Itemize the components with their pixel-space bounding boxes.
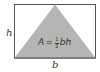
formula-fraction: 1 2 bbox=[55, 37, 59, 49]
formula-rhs: bh bbox=[60, 38, 71, 47]
base-label: b bbox=[52, 60, 58, 70]
diagram-figure bbox=[0, 0, 100, 72]
formula-equals: = bbox=[45, 38, 53, 47]
fraction-numerator: 1 bbox=[55, 37, 58, 42]
formula-lhs: A bbox=[38, 38, 44, 47]
area-formula: A = 1 2 bh bbox=[38, 37, 71, 49]
fraction-denominator: 2 bbox=[55, 44, 58, 49]
triangle-area-diagram: h b A = 1 2 bh bbox=[0, 0, 100, 72]
height-label: h bbox=[6, 28, 12, 38]
